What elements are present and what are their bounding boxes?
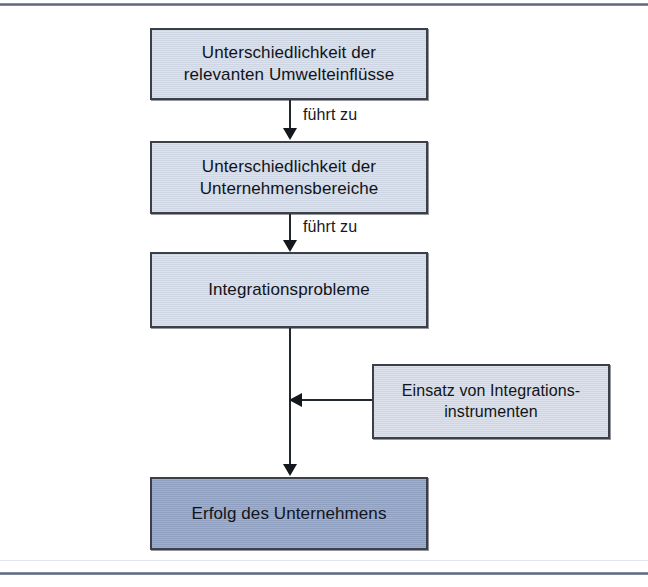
page-top-rule — [0, 3, 648, 6]
edge-3-arrowhead-icon — [283, 464, 297, 476]
node-unternehmensbereiche-line2: Unternehmensbereiche — [200, 178, 379, 200]
node-umwelteinfluesse-line1: Unterschiedlichkeit der — [184, 42, 394, 64]
node-umwelteinfluesse-line2: relevanten Umwelteinflüsse — [184, 64, 394, 86]
edge-2-label: führt zu — [303, 218, 357, 236]
edge-2-arrowhead-icon — [283, 240, 297, 252]
edge-4-arrowhead-icon — [289, 393, 302, 407]
diagram-canvas: Unterschiedlichkeit der relevanten Umwel… — [0, 0, 648, 587]
node-integrationsprobleme-line1: Integrationsprobleme — [208, 279, 370, 301]
node-unternehmensbereiche-line1: Unterschiedlichkeit der — [200, 156, 379, 178]
edge-4-line — [300, 399, 372, 401]
page-bottom-rule — [0, 572, 648, 575]
edge-1-arrowhead-icon — [283, 128, 297, 140]
node-integrationsinstrumente-line2: instrumenten — [402, 402, 581, 422]
node-umwelteinfluesse[interactable]: Unterschiedlichkeit der relevanten Umwel… — [150, 28, 428, 100]
edge-1-label: führt zu — [303, 106, 357, 124]
page-faint-rule — [0, 560, 648, 561]
node-unternehmensbereiche[interactable]: Unterschiedlichkeit der Unternehmensbere… — [150, 141, 428, 214]
node-erfolg-line1: Erfolg des Unternehmens — [191, 503, 386, 525]
node-erfolg[interactable]: Erfolg des Unternehmens — [150, 477, 428, 550]
edge-1-line — [289, 100, 291, 130]
node-integrationsinstrumente[interactable]: Einsatz von Integrations- instrumenten — [372, 364, 610, 439]
node-integrationsprobleme[interactable]: Integrationsprobleme — [150, 252, 428, 328]
node-integrationsinstrumente-line1: Einsatz von Integrations- — [402, 381, 581, 401]
edge-2-line — [289, 214, 291, 242]
